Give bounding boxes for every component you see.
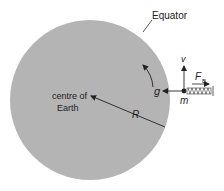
centre-label-line1: centre of [52,91,88,101]
force-subscript: B [202,78,206,84]
force-label: F [195,71,202,82]
equator-label: Equator [152,10,188,21]
gravity-label: g [154,85,161,97]
mass-label: m [180,95,188,106]
mass-dot [182,89,187,94]
earth-circle [10,20,170,180]
equator-leader-line [143,20,152,32]
radius-label: R [132,109,139,120]
velocity-label: v [181,54,186,64]
earth-diagram: Equator R centre of Earth g v m F B [0,0,224,191]
spring-balance-icon [187,86,213,96]
centre-label-line2: Earth [57,103,79,113]
